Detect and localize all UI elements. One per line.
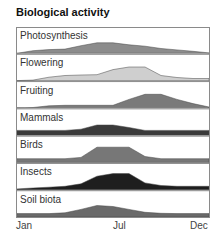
x-tick-dec: Dec xyxy=(190,220,208,231)
plot-frame xyxy=(16,27,210,218)
x-tick-jul: Jul xyxy=(113,220,126,231)
x-tick-jan: Jan xyxy=(16,220,32,231)
chart-title: Biological activity xyxy=(16,6,110,18)
